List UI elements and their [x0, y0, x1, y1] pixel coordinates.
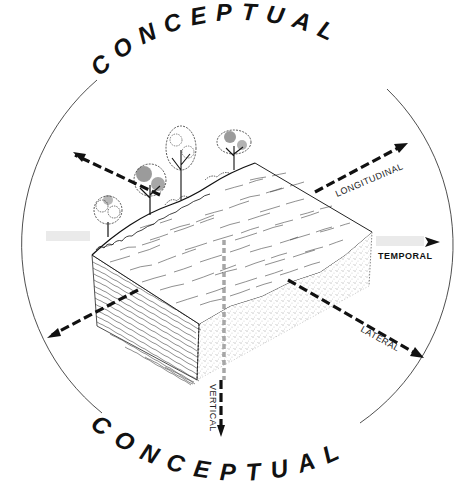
arrowhead-icon — [425, 237, 440, 247]
tree-icon — [134, 164, 166, 215]
arrowhead-icon — [410, 347, 424, 358]
tree-icon — [166, 126, 196, 200]
vertical-axis: VERTICAL — [208, 380, 225, 437]
longitudinal-label: LONGITUDINAL — [334, 161, 405, 199]
conceptual-diagram: CONCEPTUAL CONCEPTUAL — [0, 0, 470, 492]
svg-text:CONCEPTUAL: CONCEPTUAL — [85, 0, 347, 81]
lateral-label: LATERAL — [359, 324, 401, 354]
tree-icon — [217, 130, 251, 170]
arrowhead-icon — [47, 328, 61, 338]
top-title: CONCEPTUAL — [85, 0, 347, 81]
stream-block-illustration — [92, 126, 372, 385]
temporal-label: TEMPORAL — [378, 251, 433, 261]
tree-icon — [94, 195, 122, 237]
vertical-label: VERTICAL — [208, 384, 218, 432]
